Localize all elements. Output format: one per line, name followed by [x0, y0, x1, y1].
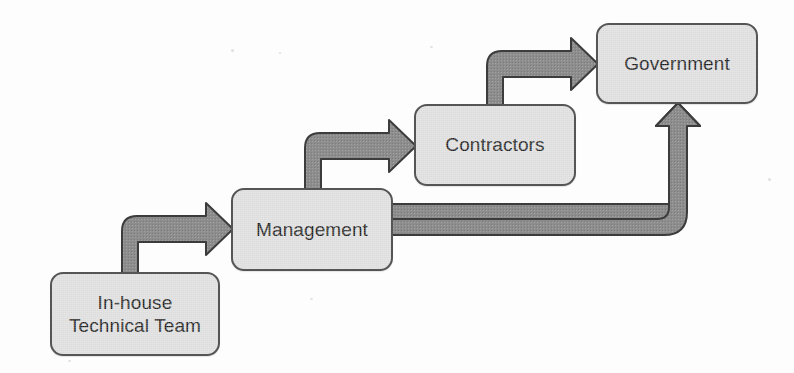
scan-speck	[279, 52, 281, 54]
node-contractors[interactable]: Contractors	[414, 104, 576, 186]
node-government[interactable]: Government	[596, 23, 758, 104]
scan-speck	[231, 49, 234, 52]
edge-contractors-to-government	[487, 38, 598, 107]
edge-team-to-management	[122, 203, 233, 275]
diagram-canvas-container: In-house Technical Team Management Contr…	[0, 0, 794, 373]
scan-speck	[310, 298, 313, 300]
scan-speck	[68, 360, 71, 362]
node-label-contractors: Contractors	[439, 133, 550, 156]
node-label-in-house-technical-team: In-house Technical Team	[63, 291, 207, 337]
node-label-government: Government	[618, 52, 736, 75]
edge-management-to-contractors	[305, 120, 416, 191]
node-label-management: Management	[250, 218, 374, 241]
scan-speck	[768, 178, 771, 181]
scan-speck	[430, 46, 433, 48]
node-in-house-technical-team[interactable]: In-house Technical Team	[50, 272, 220, 356]
node-management[interactable]: Management	[231, 188, 393, 271]
